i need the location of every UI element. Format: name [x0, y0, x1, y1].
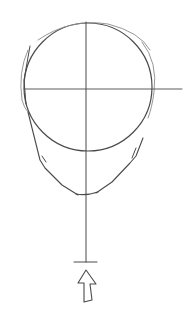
cranium-sketch-arc-top [38, 23, 150, 50]
temple-line-left [24, 46, 30, 104]
up-arrow-icon [78, 270, 96, 302]
jaw-line-right [96, 138, 143, 193]
head-sketch [0, 0, 192, 316]
cheek-accent-left [42, 156, 46, 162]
chin-line [76, 192, 98, 195]
cranium-circle [24, 23, 152, 151]
